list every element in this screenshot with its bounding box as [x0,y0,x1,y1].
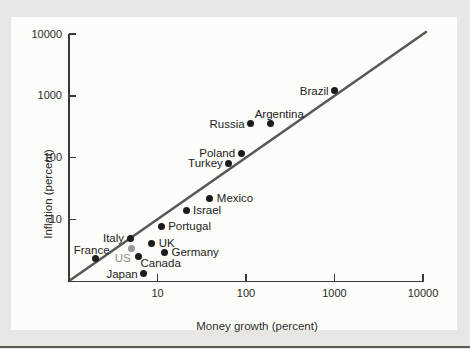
x-tick-mark [334,274,336,281]
x-tick-label: 10 [128,287,188,300]
data-point-label: Japan [106,268,137,280]
x-tick-mark [422,274,424,281]
y-tick-label: 100 [18,151,62,164]
x-tick-mark [245,274,247,281]
data-point [148,240,155,247]
data-point [127,235,134,242]
data-point-label: Russia [210,118,245,130]
data-point [158,223,165,230]
data-point-label: Brazil [300,85,329,97]
x-tick-label: 1000 [305,287,365,300]
data-point-label: Israel [193,204,221,216]
x-tick-mark [157,274,159,281]
y-axis-title: Inflation (percent) [42,114,54,274]
data-point [238,150,245,157]
data-point [183,207,190,214]
y-tick-mark [69,157,76,159]
y-tick-mark [69,33,76,35]
data-point-label: Argentina [255,108,304,120]
data-point-label: France [74,244,110,256]
data-point [161,249,168,256]
data-point-label: Portugal [168,220,211,232]
y-tick-mark [69,95,76,97]
data-point-label: US [115,252,131,264]
data-point-label: Italy [103,232,124,244]
plot-area: 1010010001000010100100010000BrazilArgent… [69,34,423,281]
data-point [206,195,213,202]
x-axis-title: Money growth (percent) [127,320,387,332]
y-tick-mark [69,219,76,221]
y-tick-label: 10000 [18,28,62,41]
data-point-label: Turkey [188,157,223,169]
x-tick-label: 100 [216,287,276,300]
data-point-label: Canada [141,257,181,269]
x-tick-label: 10000 [393,287,453,300]
y-tick-label: 10 [18,213,62,226]
money-growth-inflation-figure: Money growth (percent) Inflation (percen… [0,0,470,349]
data-point-label: Mexico [217,192,253,204]
bottom-rule [0,346,470,348]
y-tick-label: 1000 [18,89,62,102]
